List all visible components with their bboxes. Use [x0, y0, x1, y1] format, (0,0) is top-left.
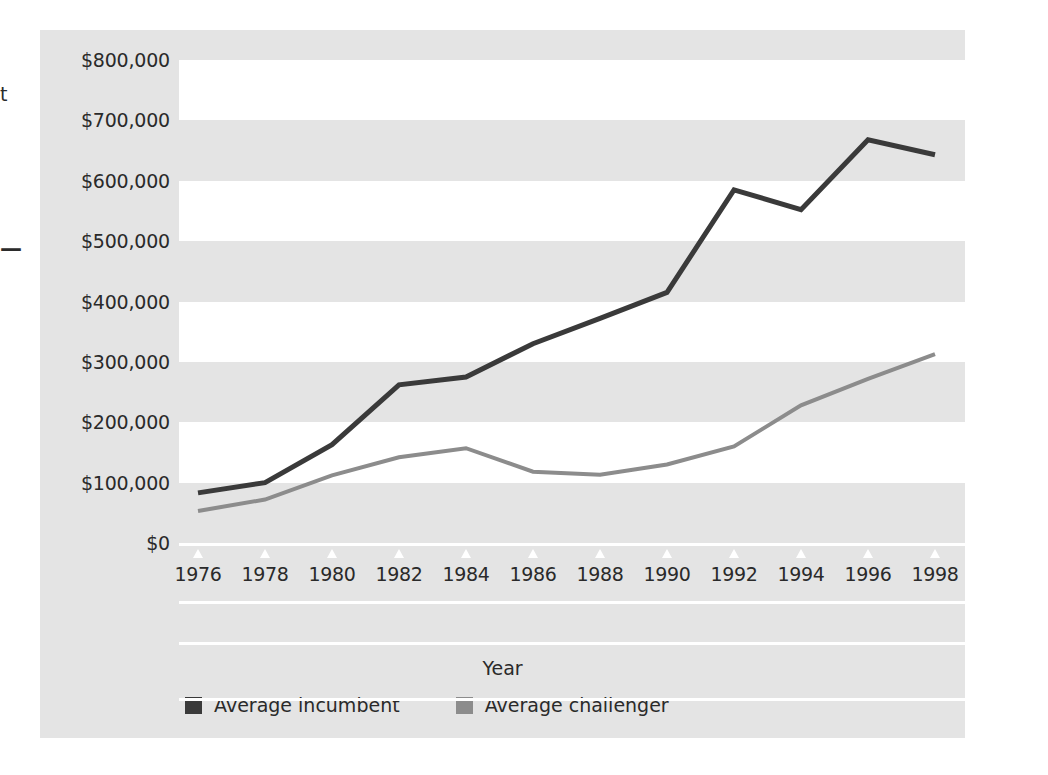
x-axis-tick-label: 1986 — [509, 563, 556, 585]
x-axis-title: Year — [40, 657, 965, 679]
x-axis-tick-label: 1994 — [777, 563, 824, 585]
axis-rule — [179, 642, 965, 645]
chart-panel: $0$100,000$200,000$300,000$400,000$500,0… — [40, 30, 965, 738]
x-axis-tick-label: 1976 — [174, 563, 221, 585]
series-line-incumbent — [198, 140, 935, 493]
axis-rule — [179, 698, 965, 701]
x-axis-tick-label: 1988 — [576, 563, 623, 585]
x-axis-tick-label: 1990 — [643, 563, 690, 585]
plot-area: $0$100,000$200,000$300,000$400,000$500,0… — [40, 30, 965, 615]
page-artifact-letter: t — [0, 85, 7, 104]
x-axis-tick-label: 1978 — [241, 563, 288, 585]
x-axis-tick-label: 1998 — [911, 563, 958, 585]
x-axis-tick-label: 1980 — [308, 563, 355, 585]
x-axis-tick-label: 1996 — [844, 563, 891, 585]
series-lines — [40, 30, 965, 615]
page-artifact-dash: — — [0, 238, 22, 260]
x-axis-tick-label: 1984 — [442, 563, 489, 585]
series-line-challenger — [198, 354, 935, 511]
x-axis-tick-label: 1982 — [375, 563, 422, 585]
x-axis-tick-label: 1992 — [710, 563, 757, 585]
